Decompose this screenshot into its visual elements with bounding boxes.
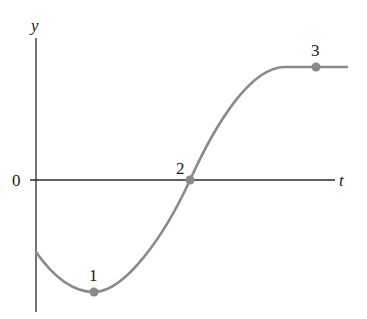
point-2-marker bbox=[186, 176, 195, 185]
t-axis-label: t bbox=[339, 171, 345, 190]
point-3-label: 3 bbox=[311, 41, 320, 60]
point-1-marker bbox=[90, 288, 99, 297]
point-1-label: 1 bbox=[89, 266, 98, 285]
zero-label: 0 bbox=[12, 171, 21, 190]
point-3-marker bbox=[312, 63, 321, 72]
point-2-label: 2 bbox=[176, 159, 185, 178]
graph-canvas: y t 0 1 2 3 bbox=[0, 0, 367, 319]
y-axis-label: y bbox=[29, 16, 39, 35]
